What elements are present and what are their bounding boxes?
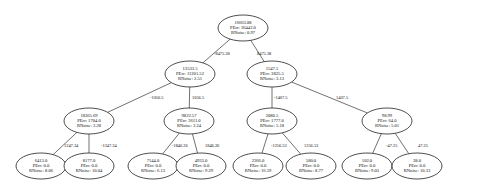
edge-label: 47.25: [418, 143, 429, 148]
edge-label: -8475.38: [214, 51, 231, 56]
tree-edge: 8475.38: [251, 40, 272, 61]
tree-edge: 47.25: [395, 133, 428, 153]
edges-layer: -8475.388475.38-1056.51056.5-1407.51407.…: [53, 39, 429, 154]
tree-node: 580.0PErr: 0.0RNoise: 8.77: [286, 153, 336, 179]
tree-edge: -1247.34: [89, 134, 118, 153]
tree-node: 18365.69PErr: 1704.0RNoise: 3.28: [64, 108, 114, 134]
edge-line: [373, 134, 382, 154]
tree-edge: 1407.5: [292, 82, 368, 113]
node-rnoise: RNoise: 0.97: [231, 30, 256, 35]
edge-label: 1247.34: [64, 143, 79, 148]
edge-label: -1846.26: [172, 143, 189, 148]
node-rnoise: RNoise: 3.28: [77, 123, 102, 128]
node-rnoise: RNoise: 16.59: [245, 168, 272, 173]
tree-node: 4933.0PErr: 0.0RNoise: 9.29: [176, 153, 226, 179]
nodes-layer: 16663.88PErr: 36442.0RNoise: 0.9713533.5…: [16, 15, 442, 179]
edge-label: 1256.53: [304, 143, 319, 148]
tree-edge: -1846.26: [163, 133, 189, 154]
node-rnoise: RNoise: 10.04: [76, 168, 103, 173]
node-rnoise: RNoise: 9.29: [189, 168, 214, 173]
edge-label: -1256.53: [271, 143, 288, 148]
edge-line: [192, 134, 197, 153]
tree-node: 1547.5PErr: 3825.5RNoise: 3.13: [247, 61, 297, 87]
node-rnoise: RNoise: 5.01: [375, 123, 400, 128]
node-rnoise: RNoise: 5.18: [260, 123, 285, 128]
tree-node: 38.0PErr: 0.0RNoise: 10.33: [392, 153, 442, 179]
edge-line: [262, 134, 268, 153]
edge-label: -47.25: [386, 143, 398, 148]
tree-node: 16663.88PErr: 36442.0RNoise: 0.97: [218, 15, 268, 41]
edge-line: [292, 82, 368, 113]
node-rnoise: RNoise: 2.51: [178, 76, 203, 81]
edge-label: 8475.38: [257, 51, 272, 56]
node-rnoise: RNoise: 3.13: [260, 76, 285, 81]
edge-label: 1846.26: [205, 143, 220, 148]
node-rnoise: RNoise: 8.06: [29, 168, 54, 173]
tree-edge: 1247.34: [53, 132, 79, 154]
edge-label: -1407.5: [274, 95, 288, 100]
edge-label: 1056.5: [192, 95, 205, 100]
tree-node: 9822.57PErr: 2611.0RNoise: 3.24: [164, 108, 214, 134]
node-rnoise: RNoise: 10.33: [404, 168, 431, 173]
tree-node: 2366.0PErr: 0.0RNoise: 16.59: [233, 153, 283, 179]
tree-edge: 1846.26: [192, 134, 220, 153]
edge-label: 1407.5: [336, 95, 349, 100]
tree-edge: 1056.5: [189, 87, 205, 108]
tree-node: 6413.0PErr: 0.0RNoise: 8.06: [16, 153, 66, 179]
tree-node: 2080.5PErr: 1777.0RNoise: 5.18: [247, 108, 297, 134]
edge-label: -1056.5: [150, 95, 164, 100]
tree-edge: 1256.53: [282, 133, 319, 154]
tree-edge: -47.25: [373, 134, 399, 154]
tree-node: 13533.5PErr: 11201.52RNoise: 2.51: [165, 61, 215, 87]
edge-label: -1247.34: [101, 143, 118, 148]
tree-edge: -1407.5: [272, 87, 288, 108]
tree-edge: -1056.5: [108, 83, 172, 113]
node-rnoise: RNoise: 6.13: [141, 168, 166, 173]
tree-edge: -1256.53: [262, 134, 288, 153]
tree-node: 7144.0PErr: 0.0RNoise: 6.13: [128, 153, 178, 179]
decision-tree: -8475.388475.38-1056.51056.5-1407.51407.…: [0, 0, 489, 192]
tree-node: 98.99PErr: 64.0RNoise: 5.01: [362, 108, 412, 134]
node-rnoise: RNoise: 9.03: [355, 168, 380, 173]
tree-node: 102.0PErr: 0.0RNoise: 9.03: [342, 153, 392, 179]
node-rnoise: RNoise: 3.24: [177, 123, 202, 128]
node-rnoise: RNoise: 8.77: [299, 168, 324, 173]
tree-node: 8177.0PErr: 0.0RNoise: 10.04: [64, 153, 114, 179]
tree-edge: -8475.38: [203, 39, 231, 63]
